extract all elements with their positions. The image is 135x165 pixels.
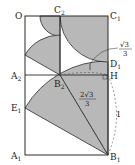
sector-b2 xyxy=(25,35,60,75)
geometry-diagram: O C2 C1 D1 H A2 B2 E1 A1 B1 √3 3 2√3 3 1 xyxy=(0,0,135,165)
label-D1: D1 xyxy=(110,59,121,70)
label-A1: A1 xyxy=(10,151,21,162)
shaded-top-small xyxy=(40,16,60,36)
label-O: O xyxy=(15,11,22,21)
shaded-upper-right xyxy=(60,16,108,62)
label-A2: A2 xyxy=(10,71,22,82)
annot-2sqrt3-num: 2√3 xyxy=(80,91,93,99)
annot-2sqrt3-den: 3 xyxy=(85,100,89,108)
label-B1: B1 xyxy=(110,152,120,163)
label-E1: E1 xyxy=(11,103,21,114)
label-C2: C2 xyxy=(54,5,65,16)
annot-sqrt3-den: 3 xyxy=(123,50,127,58)
annot-one: 1 xyxy=(116,110,121,119)
label-C1: C1 xyxy=(110,11,121,22)
annot-sqrt3-num: √3 xyxy=(120,41,129,49)
label-H: H xyxy=(110,71,118,81)
